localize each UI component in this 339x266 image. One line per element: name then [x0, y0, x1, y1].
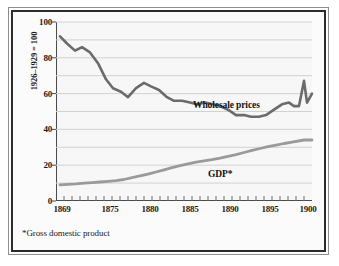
series-annotation-gdp: GDP*: [208, 169, 232, 179]
figure-root: 1926–1929 = 100 100 80 60 40 20 0: [0, 0, 339, 266]
x-tick-label: 1869: [53, 204, 70, 214]
y-tick-label: 80: [18, 53, 52, 63]
chart-canvas: [56, 22, 312, 201]
plot-area-wrapper: Wholesale prices GDP*: [56, 22, 312, 201]
x-tick-label: 1900: [299, 204, 316, 214]
series-line-gdp: [60, 140, 312, 185]
y-tick-label: 0: [18, 196, 52, 206]
x-tick-label: 1895: [261, 204, 278, 214]
x-tick-label: 1875: [101, 204, 118, 214]
y-tick-label: 60: [18, 89, 52, 99]
y-tick-label: 20: [18, 160, 52, 170]
x-axis-minor-ticks: [64, 196, 304, 201]
x-tick-label: 1890: [221, 204, 238, 214]
y-tick-label: 100: [18, 17, 52, 27]
series-annotation-wholesale-prices: Wholesale prices: [193, 100, 260, 110]
figure-footnote: *Gross domestic product: [22, 228, 110, 238]
x-tick-label: 1885: [181, 204, 198, 214]
y-tick-label: 40: [18, 124, 52, 134]
y-axis-tick-labels: 100 80 60 40 20 0: [16, 22, 52, 201]
x-axis-tick-labels: 1869 1875 1880 1885 1890 1895 1900: [56, 204, 312, 218]
x-tick-label: 1880: [141, 204, 158, 214]
series-line-wholesale-prices: [60, 36, 312, 117]
